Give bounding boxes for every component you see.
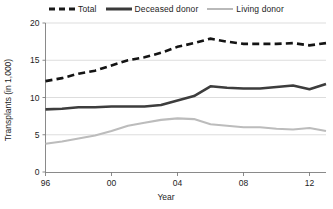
y-tick-label: 10 — [30, 93, 40, 103]
x-tick-label: 04 — [173, 178, 183, 188]
x-tick-label: 08 — [239, 178, 249, 188]
y-axis-title: Transplants (in 1,000) — [3, 59, 13, 142]
x-tick-label: 12 — [305, 178, 315, 188]
series-line-total — [46, 39, 327, 81]
x-axis-ticks: 9600040812 — [41, 172, 315, 188]
x-axis-title: Year — [157, 192, 174, 202]
x-tick-label: 96 — [41, 178, 51, 188]
y-tick-label: 15 — [30, 55, 40, 65]
x-tick-label: 00 — [107, 178, 117, 188]
y-axis-ticks: 05101520 — [30, 18, 45, 177]
series-line-deceased-donor — [46, 84, 327, 109]
y-tick-label: 0 — [35, 167, 40, 177]
line-chart: 05101520 9600040812 Year Transplants (in… — [0, 0, 333, 209]
y-tick-label: 5 — [35, 130, 40, 140]
y-tick-label: 20 — [30, 18, 40, 28]
series-line-living-donor — [46, 118, 327, 143]
chart-page: Total Deceased donor Living donor 051015… — [0, 0, 333, 209]
